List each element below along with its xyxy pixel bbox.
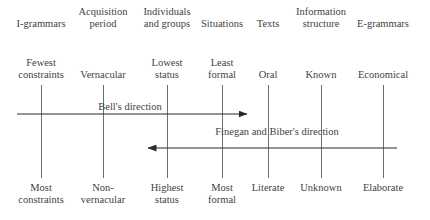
bottom-label-i-grammars: Most constraints — [18, 182, 64, 205]
bottom-label-line2: vernacular — [81, 194, 125, 206]
bell-direction-label: Bell's direction — [98, 101, 161, 113]
bottom-label-line2: formal — [208, 194, 236, 206]
bottom-label-line1: Elaborate — [363, 182, 403, 194]
bottom-label-line2: constraints — [18, 194, 64, 206]
bottom-label-e-grammars: Elaborate — [363, 182, 403, 194]
bottom-label-situations: Most formal — [208, 182, 236, 205]
bottom-label-line1: Literate — [252, 182, 285, 194]
bottom-label-line1: Most — [18, 182, 64, 194]
linguistic-continuum-diagram: I-grammars Acquisition period Individual… — [0, 0, 430, 220]
finegan-biber-direction-label: Finegan and Biber's direction — [215, 126, 339, 138]
bottom-label-line1: Unknown — [300, 182, 341, 194]
bottom-label-individuals-and-groups: Highest status — [151, 182, 184, 205]
bottom-label-texts: Literate — [252, 182, 285, 194]
bottom-label-line1: Most — [208, 182, 236, 194]
bottom-label-information-structure: Unknown — [300, 182, 341, 194]
bottom-label-line2: status — [151, 194, 184, 206]
bottom-label-line1: Non- — [81, 182, 125, 194]
bottom-label-line1: Highest — [151, 182, 184, 194]
bottom-label-acquisition-period: Non- vernacular — [81, 182, 125, 205]
